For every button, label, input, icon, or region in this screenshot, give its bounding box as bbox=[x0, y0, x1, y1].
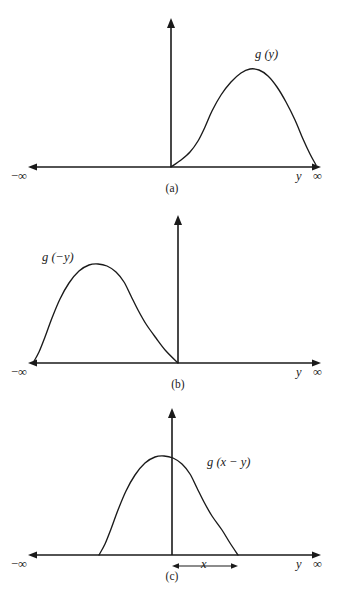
left-infinity-label-c: −∞ bbox=[11, 558, 27, 571]
function-curve-c bbox=[99, 456, 238, 555]
left-infinity-label-a: −∞ bbox=[11, 170, 27, 183]
axis-arrow-left-c bbox=[28, 551, 37, 558]
right-infinity-label-c: ∞ bbox=[313, 558, 322, 571]
axis-arrow-left-a bbox=[28, 163, 37, 170]
curve-label-c: g (x − y) bbox=[207, 456, 250, 469]
shift-arrow-left-c bbox=[172, 563, 179, 569]
panel-caption-b: (b) bbox=[158, 379, 198, 391]
axis-variable-label-b: y bbox=[296, 366, 302, 379]
panel-c bbox=[28, 408, 321, 569]
curve-label-a: g (y) bbox=[255, 48, 278, 61]
axis-arrow-up-a bbox=[167, 18, 175, 28]
figure-container: g (y) −∞ y ∞ (a) g (−y) −∞ y ∞ (b) g (x … bbox=[0, 0, 349, 602]
panel-caption-a: (a) bbox=[152, 183, 192, 195]
panel-a bbox=[28, 18, 321, 171]
shift-arrow-right-c bbox=[231, 563, 238, 569]
axis-arrow-up-b bbox=[174, 215, 182, 225]
axis-arrow-up-c bbox=[168, 408, 176, 418]
function-curve-b bbox=[33, 264, 178, 363]
panel-caption-c: (c) bbox=[152, 571, 192, 583]
axis-variable-label-a: y bbox=[296, 170, 302, 183]
panel-b bbox=[28, 215, 321, 367]
axis-variable-label-c: y bbox=[296, 558, 302, 571]
shift-amount-label-c: x bbox=[201, 558, 207, 571]
function-curve-a bbox=[171, 69, 316, 167]
figure-vector-layer bbox=[0, 0, 349, 602]
right-infinity-label-b: ∞ bbox=[313, 366, 322, 379]
right-infinity-label-a: ∞ bbox=[313, 170, 322, 183]
curve-label-b: g (−y) bbox=[42, 251, 74, 264]
left-infinity-label-b: −∞ bbox=[11, 366, 27, 379]
